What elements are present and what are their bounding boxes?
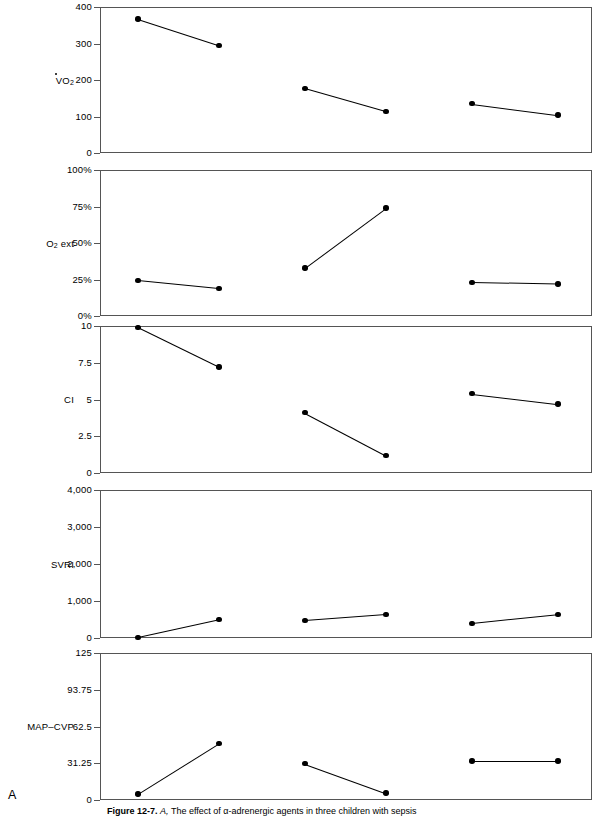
data-point-map_cvp-patient-1-pre xyxy=(135,791,140,796)
y-tick-label-vo2-4: 400 xyxy=(4,2,92,12)
y-tick-vo2-1 xyxy=(94,117,100,118)
data-point-vo2-patient-1-pre xyxy=(135,16,140,21)
axis-title-text: O2 ext xyxy=(46,238,74,249)
y-tick-vo2-2 xyxy=(94,80,100,81)
y-tick-label-o2ext-4: 100% xyxy=(4,165,92,175)
y-tick-label-map_cvp-4: 125 xyxy=(4,648,92,658)
y-tick-map_cvp-0 xyxy=(94,800,100,801)
plot-area-svri xyxy=(100,490,592,638)
data-point-svri-patient-3-post xyxy=(555,612,560,617)
data-point-map_cvp-patient-3-post xyxy=(555,758,560,763)
axis-title-text: VO2 xyxy=(56,75,74,86)
vo2-overdot-icon xyxy=(55,73,57,75)
figure-12-7: 0100200300400VO20%25%50%75%100%O2 ext02.… xyxy=(0,0,601,817)
y-tick-ci-4 xyxy=(94,326,100,327)
data-point-svri-patient-1-pre xyxy=(135,635,140,640)
y-tick-label-o2ext-3: 75% xyxy=(4,202,92,212)
data-point-vo2-patient-2-pre xyxy=(302,86,307,91)
y-tick-label-vo2-0: 0 xyxy=(4,148,92,158)
y-tick-ci-2 xyxy=(94,400,100,401)
y-tick-o2ext-2 xyxy=(94,243,100,244)
y-tick-svri-2 xyxy=(94,564,100,565)
data-point-map_cvp-patient-1-post xyxy=(216,741,221,746)
y-tick-label-ci-1: 2.5 xyxy=(4,431,92,441)
y-tick-label-ci-3: 7.5 xyxy=(4,358,92,368)
axis-title-ci: CI xyxy=(0,395,86,405)
y-tick-map_cvp-4 xyxy=(94,653,100,654)
y-tick-label-svri-3: 3,000 xyxy=(4,522,92,532)
data-point-svri-patient-3-pre xyxy=(469,621,474,626)
data-point-vo2-patient-1-post xyxy=(216,43,221,48)
data-point-ci-patient-1-post xyxy=(216,364,221,369)
data-point-vo2-patient-2-post xyxy=(383,109,388,114)
y-tick-vo2-0 xyxy=(94,153,100,154)
data-point-svri-patient-2-pre xyxy=(302,618,307,623)
data-point-vo2-patient-3-post xyxy=(555,112,560,117)
y-tick-ci-1 xyxy=(94,436,100,437)
y-tick-o2ext-3 xyxy=(94,207,100,208)
data-point-o2ext-patient-2-post xyxy=(383,205,388,210)
caption-text: The effect of α-adrenergic agents in thr… xyxy=(171,806,417,816)
y-tick-label-svri-4: 4,000 xyxy=(4,485,92,495)
y-tick-ci-0 xyxy=(94,473,100,474)
y-tick-o2ext-1 xyxy=(94,280,100,281)
y-tick-label-map_cvp-0: 0 xyxy=(4,795,92,805)
y-tick-o2ext-0 xyxy=(94,316,100,317)
y-tick-label-ci-0: 0 xyxy=(4,468,92,478)
y-tick-label-o2ext-0: 0% xyxy=(4,311,92,321)
y-tick-label-o2ext-1: 25% xyxy=(4,275,92,285)
figure-caption: Figure 12-7. A, The effect of α-adrenerg… xyxy=(107,806,417,817)
data-point-map_cvp-patient-2-pre xyxy=(302,761,307,766)
data-point-o2ext-patient-2-pre xyxy=(302,265,307,270)
data-point-svri-patient-2-post xyxy=(383,612,388,617)
y-tick-vo2-3 xyxy=(94,44,100,45)
data-point-svri-patient-1-post xyxy=(216,617,221,622)
y-tick-ci-3 xyxy=(94,363,100,364)
caption-panel-ref: A, xyxy=(160,806,169,816)
axis-title-map_cvp: MAP–CVP xyxy=(0,722,86,732)
y-tick-map_cvp-1 xyxy=(94,763,100,764)
data-point-o2ext-patient-3-post xyxy=(555,281,560,286)
y-tick-label-svri-0: 0 xyxy=(4,633,92,643)
y-tick-label-svri-1: 1,000 xyxy=(4,596,92,606)
y-tick-label-map_cvp-1: 31.25 xyxy=(4,758,92,768)
y-tick-o2ext-4 xyxy=(94,170,100,171)
data-point-ci-patient-3-post xyxy=(555,401,560,406)
axis-title-o2ext: O2 ext xyxy=(0,239,86,251)
y-tick-svri-1 xyxy=(94,601,100,602)
plot-area-o2ext xyxy=(100,170,592,316)
y-tick-label-ci-4: 10 xyxy=(4,321,92,331)
data-point-o2ext-patient-1-pre xyxy=(135,278,140,283)
data-point-o2ext-patient-1-post xyxy=(216,286,221,291)
data-point-ci-patient-3-pre xyxy=(469,391,474,396)
y-tick-label-vo2-1: 100 xyxy=(4,112,92,122)
data-point-ci-patient-1-pre xyxy=(135,325,140,330)
y-tick-label-map_cvp-3: 93.75 xyxy=(4,685,92,695)
y-tick-svri-4 xyxy=(94,490,100,491)
y-tick-map_cvp-2 xyxy=(94,727,100,728)
data-point-map_cvp-patient-2-post xyxy=(383,790,388,795)
axis-title-vo2: VO2 xyxy=(0,76,86,88)
data-point-ci-patient-2-post xyxy=(383,453,388,458)
caption-figure-number: Figure 12-7. xyxy=(107,806,158,816)
y-tick-svri-3 xyxy=(94,527,100,528)
data-line-map_cvp-patient-3 xyxy=(472,761,558,762)
panel-letter-a: A xyxy=(8,788,16,802)
y-tick-map_cvp-3 xyxy=(94,690,100,691)
data-point-map_cvp-patient-3-pre xyxy=(469,758,474,763)
y-tick-svri-0 xyxy=(94,638,100,639)
data-point-o2ext-patient-3-pre xyxy=(469,280,474,285)
axis-title-svri: SVRI xyxy=(0,560,86,570)
y-tick-label-vo2-3: 300 xyxy=(4,39,92,49)
y-tick-vo2-4 xyxy=(94,7,100,8)
plot-area-vo2 xyxy=(100,7,592,153)
